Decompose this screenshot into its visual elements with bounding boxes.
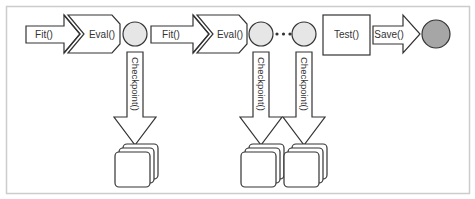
- fit-label-2: Fit(): [162, 29, 180, 40]
- fit-label-1: Fit(): [35, 29, 53, 40]
- fit-arrow-2: Fit(): [151, 15, 209, 53]
- ellipsis-dots: [275, 32, 291, 35]
- checkpoint-arrow-3: Checkpoint(): [283, 52, 325, 145]
- checkpoint-storage-stack-1: [115, 144, 158, 187]
- checkpoint-label-3: Checkpoint(): [299, 57, 310, 111]
- model-state-circle-3: [292, 22, 316, 46]
- fit-arrow-1: Fit(): [26, 15, 80, 53]
- save-arrow: Save(): [373, 15, 420, 53]
- eval-label-1: Eval(): [89, 29, 115, 40]
- model-state-circle-2: [249, 22, 273, 46]
- test-box: Test(): [323, 15, 370, 55]
- diagram-canvas: Fit() Eval() Checkpoint() Fit() Eval(): [0, 0, 475, 199]
- final-model-circle: [422, 20, 450, 48]
- checkpoint-label-1: Checkpoint(): [130, 57, 141, 111]
- model-state-circle-1: [123, 22, 147, 46]
- eval-label-2: Eval(): [217, 29, 243, 40]
- test-label: Test(): [334, 29, 359, 40]
- checkpoint-label-2: Checkpoint(): [256, 57, 267, 111]
- checkpoint-arrow-2: Checkpoint(): [240, 52, 282, 145]
- checkpoint-storage-stack-2: [241, 144, 284, 187]
- checkpoint-arrow-1: Checkpoint(): [114, 52, 156, 145]
- checkpoint-storage-stack-3: [284, 144, 327, 187]
- save-label: Save(): [374, 29, 403, 40]
